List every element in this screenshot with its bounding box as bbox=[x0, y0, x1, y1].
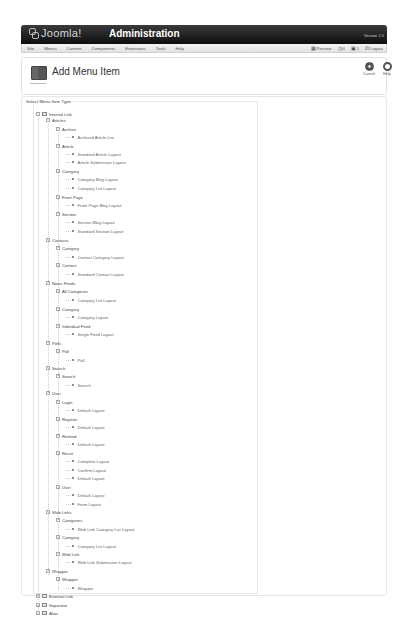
expand-toggle-icon[interactable]: − bbox=[56, 485, 60, 489]
expand-toggle-icon[interactable]: − bbox=[56, 212, 60, 216]
tree-leaf-item[interactable]: Confirm Layout bbox=[66, 467, 106, 473]
expand-toggle-icon[interactable]: − bbox=[56, 169, 60, 173]
expand-toggle-icon[interactable]: + bbox=[36, 611, 40, 615]
expand-toggle-icon[interactable]: − bbox=[56, 417, 60, 421]
tree-leaf-item[interactable]: Single Feed Layout bbox=[66, 331, 114, 337]
expand-toggle-icon[interactable]: − bbox=[56, 144, 60, 148]
tree-leaf-item[interactable]: Complete Layout bbox=[66, 458, 109, 464]
logout-link[interactable]: ⊡ Logout bbox=[362, 46, 386, 51]
expand-toggle-icon[interactable]: − bbox=[46, 118, 50, 122]
tree-group-node[interactable]: −Register bbox=[56, 416, 78, 422]
tree-leaf-item[interactable]: Contact Category Layout bbox=[66, 254, 124, 260]
expand-toggle-icon[interactable]: − bbox=[56, 451, 60, 455]
expand-toggle-icon[interactable]: − bbox=[46, 281, 50, 285]
tree-leaf-item[interactable]: Category Layout bbox=[66, 314, 108, 320]
tree-group-node[interactable]: −Contacts bbox=[46, 237, 69, 243]
tree-leaf-item[interactable]: Wrapper bbox=[66, 585, 93, 591]
tree-group-node[interactable]: −User bbox=[46, 390, 61, 396]
tree-leaf-item[interactable]: Default Layout bbox=[66, 475, 105, 481]
expand-toggle-icon[interactable]: − bbox=[56, 374, 60, 378]
tree-leaf-item[interactable]: Category List Layout bbox=[66, 297, 116, 303]
expand-toggle-icon[interactable]: − bbox=[56, 400, 60, 404]
tree-group-node[interactable]: −Web Links bbox=[46, 509, 71, 515]
help-button[interactable]: Help bbox=[378, 62, 396, 76]
tree-group-node[interactable]: −Remind bbox=[56, 433, 76, 439]
tree-leaf-item[interactable]: Default Layout bbox=[66, 407, 105, 413]
tree-group-node[interactable]: −Article bbox=[56, 143, 74, 149]
menu-help[interactable]: Help bbox=[170, 46, 189, 51]
expand-toggle-icon[interactable]: − bbox=[56, 246, 60, 250]
expand-toggle-icon[interactable]: − bbox=[56, 127, 60, 131]
tree-leaf-item[interactable]: Default Layout bbox=[66, 424, 105, 430]
tree-leaf-item[interactable]: Form Layout bbox=[66, 501, 101, 507]
tree-group-node[interactable]: +External Link bbox=[36, 593, 73, 599]
tree-group-node[interactable]: −Category bbox=[56, 534, 79, 540]
expand-toggle-icon[interactable]: − bbox=[36, 112, 40, 116]
tree-group-node[interactable]: −Section bbox=[56, 211, 76, 217]
tree-leaf-item[interactable]: Section Blog Layout bbox=[66, 219, 115, 225]
expand-toggle-icon[interactable]: − bbox=[46, 510, 50, 514]
expand-toggle-icon[interactable]: − bbox=[46, 391, 50, 395]
expand-toggle-icon[interactable]: − bbox=[56, 577, 60, 581]
tree-leaf-item[interactable]: Default Layout bbox=[66, 492, 105, 498]
tree-group-node[interactable]: −Categories bbox=[56, 517, 82, 523]
expand-toggle-icon[interactable]: − bbox=[56, 518, 60, 522]
tree-leaf-item[interactable]: Archived Article List bbox=[66, 134, 114, 140]
tree-group-node[interactable]: −News Feeds bbox=[46, 280, 75, 286]
tree-group-node[interactable]: −Wrapper bbox=[56, 576, 78, 582]
tree-group-node[interactable]: −User bbox=[56, 484, 71, 490]
tree-group-node[interactable]: −Poll bbox=[56, 348, 69, 354]
expand-toggle-icon[interactable]: − bbox=[56, 263, 60, 267]
tree-group-node[interactable]: −Category bbox=[56, 306, 79, 312]
expand-toggle-icon[interactable]: − bbox=[56, 307, 60, 311]
tree-group-node[interactable]: −Web Link bbox=[56, 551, 79, 557]
tree-leaf-item[interactable]: Category List Layout bbox=[66, 543, 116, 549]
tree-group-node[interactable]: −Individual Feed bbox=[56, 323, 90, 329]
tree-group-node[interactable]: −Polls bbox=[46, 340, 61, 346]
tree-group-node[interactable]: −All Categories bbox=[56, 288, 88, 294]
expand-toggle-icon[interactable]: − bbox=[46, 238, 50, 242]
tree-group-node[interactable]: −Login bbox=[56, 399, 72, 405]
tree-leaf-item[interactable]: Standard Section Layout bbox=[66, 228, 123, 234]
tree-leaf-item[interactable]: Article Submission Layout bbox=[66, 159, 126, 165]
menu-tools[interactable]: Tools bbox=[151, 46, 171, 51]
tree-leaf-item[interactable]: Web Link Category List Layout bbox=[66, 526, 134, 532]
expand-toggle-icon[interactable]: − bbox=[56, 195, 60, 199]
tree-group-node[interactable]: +Separator bbox=[36, 602, 67, 608]
menu-extensions[interactable]: Extensions bbox=[120, 46, 150, 51]
tree-group-node[interactable]: −Wrapper bbox=[46, 568, 68, 574]
tree-group-node[interactable]: −Category bbox=[56, 168, 79, 174]
expand-toggle-icon[interactable]: − bbox=[46, 341, 50, 345]
tree-leaf-item[interactable]: Standard Article Layout bbox=[66, 151, 121, 157]
tree-group-node[interactable]: −Search bbox=[56, 373, 75, 379]
tree-leaf-item[interactable]: Default Layout bbox=[66, 441, 105, 447]
tree-group-node[interactable]: −Archive bbox=[56, 126, 76, 132]
tree-group-node[interactable]: −Category bbox=[56, 245, 79, 251]
expand-toggle-icon[interactable]: − bbox=[46, 569, 50, 573]
tree-leaf-item[interactable]: Standard Contact Layout bbox=[66, 271, 124, 277]
preview-link[interactable]: ▦ Preview bbox=[308, 46, 335, 51]
tree-leaf-item[interactable]: Front Page Blog Layout bbox=[66, 202, 122, 208]
menu-menus[interactable]: Menus bbox=[39, 46, 62, 51]
expand-toggle-icon[interactable]: − bbox=[56, 289, 60, 293]
expand-toggle-icon[interactable]: − bbox=[56, 434, 60, 438]
tree-group-node[interactable]: −Contact bbox=[56, 262, 76, 268]
tree-leaf-item[interactable]: Search bbox=[66, 382, 91, 388]
tree-leaf-item[interactable]: Category Blog Layout bbox=[66, 176, 118, 182]
tree-leaf-item[interactable]: Web Link Submission Layout bbox=[66, 559, 131, 565]
tree-group-node[interactable]: −Search bbox=[46, 365, 65, 371]
expand-toggle-icon[interactable]: − bbox=[56, 535, 60, 539]
expand-toggle-icon[interactable]: − bbox=[46, 366, 50, 370]
menu-content[interactable]: Content bbox=[62, 46, 87, 51]
tree-group-node[interactable]: +Alias bbox=[36, 610, 58, 616]
expand-toggle-icon[interactable]: − bbox=[56, 324, 60, 328]
tree-group-node[interactable]: −Front Page bbox=[56, 194, 83, 200]
cancel-button[interactable]: Cancel bbox=[360, 62, 378, 76]
tree-group-node[interactable]: −Reset bbox=[56, 450, 73, 456]
users-link[interactable]: ▣ 1 bbox=[348, 46, 362, 51]
expand-toggle-icon[interactable]: − bbox=[56, 349, 60, 353]
messages-link[interactable]: ◷ 0 bbox=[335, 46, 348, 51]
expand-toggle-icon[interactable]: − bbox=[56, 552, 60, 556]
expand-toggle-icon[interactable]: + bbox=[36, 603, 40, 607]
tree-leaf-item[interactable]: Category List Layout bbox=[66, 185, 116, 191]
